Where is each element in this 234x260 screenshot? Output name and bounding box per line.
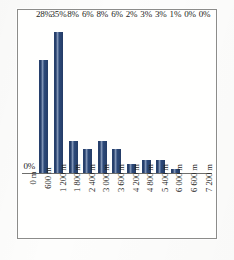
axis-tick-2400m: 2 400 m: [80, 176, 95, 234]
axis-tick-600m: 600 m: [37, 176, 52, 234]
figure-caption: [20, 250, 222, 260]
chart-plot-area: 0% 28% 35% 8% 6%: [18, 10, 216, 238]
bar-column-1200m[interactable]: 35%: [51, 20, 66, 173]
axis-tick-0m: 0 m: [22, 176, 37, 234]
axis-tick-label: 7 200 m: [205, 164, 214, 192]
bar-value-label: 0%: [184, 10, 196, 19]
bar-column-0m[interactable]: 0%: [22, 20, 37, 173]
bar-600m[interactable]: [39, 60, 48, 173]
axis-tick-6600m: 6 600 m: [183, 176, 198, 234]
bar-column-7200m[interactable]: 0%: [197, 20, 212, 173]
bar-column-3000m[interactable]: 8%: [95, 20, 110, 173]
bar-value-label: 28%: [36, 10, 52, 19]
figure-page: 0% 28% 35% 8% 6%: [0, 0, 234, 260]
bar-column-6600m[interactable]: 0%: [183, 20, 198, 173]
bar-column-2400m[interactable]: 6%: [80, 20, 95, 173]
bar-column-3600m[interactable]: 6%: [110, 20, 125, 173]
bar-value-label: 3%: [140, 10, 152, 19]
bar-value-label: 8%: [67, 10, 79, 19]
bar-column-4800m[interactable]: 3%: [139, 20, 154, 173]
chart-frame: 0% 28% 35% 8% 6%: [17, 9, 217, 239]
axis-tick-4800m: 4 800 m: [139, 176, 154, 234]
bar-value-label: 8%: [97, 10, 109, 19]
bar-value-label: 2%: [126, 10, 138, 19]
category-axis-labels: 0 m 600 m 1 200 m 1 800 m 2 400 m 3 000 …: [22, 176, 212, 234]
bar-value-label: 6%: [111, 10, 123, 19]
bar-column-600m[interactable]: 28%: [37, 20, 52, 173]
bar-value-label: 0%: [199, 10, 211, 19]
bar-column-5400m[interactable]: 3%: [153, 20, 168, 173]
bar-series: 0% 28% 35% 8% 6%: [22, 20, 212, 173]
axis-tick-3000m: 3 000 m: [95, 176, 110, 234]
bar-column-6000m[interactable]: 1%: [168, 20, 183, 173]
bar-value-label: 0%: [23, 162, 35, 171]
axis-tick-5400m: 5 400 m: [153, 176, 168, 234]
axis-tick-6000m: 6 000 m: [168, 176, 183, 234]
axis-tick-1200m: 1 200 m: [51, 176, 66, 234]
bar-value-label: 3%: [155, 10, 167, 19]
bar-value-label: 1%: [170, 10, 182, 19]
bar-value-label: 6%: [82, 10, 94, 19]
bar-column-1800m[interactable]: 8%: [66, 20, 81, 173]
axis-tick-1800m: 1 800 m: [66, 176, 81, 234]
axis-tick-7200m: 7 200 m: [197, 176, 212, 234]
axis-tick-3600m: 3 600 m: [110, 176, 125, 234]
axis-tick-4200m: 4 200 m: [124, 176, 139, 234]
bar-value-label: 35%: [51, 10, 67, 19]
bar-column-4200m[interactable]: 2%: [124, 20, 139, 173]
bar-1200m[interactable]: [54, 32, 63, 173]
